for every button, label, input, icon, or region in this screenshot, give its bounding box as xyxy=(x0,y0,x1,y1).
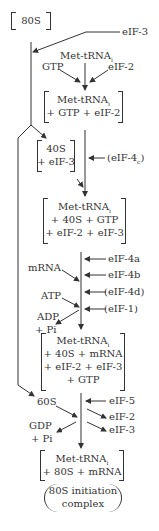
40s-eif3-node: 40S + eIF-3 xyxy=(37,140,75,172)
eif2-input-label: eIF-2 xyxy=(108,61,134,73)
ternary-complex-node: Met-tRNAi + GTP + eIF-2 xyxy=(44,91,123,123)
mrna-label: mRNA xyxy=(28,262,61,274)
gdp-label: GDP xyxy=(29,420,52,432)
met-trna-label: Met-tRNAi xyxy=(60,50,113,66)
eif1-label: (eIF-1) xyxy=(104,303,138,315)
40s-initiation-complex-node: Met-tRNAi + 40S + mRNA + eIF-2 + eIF-3 +… xyxy=(41,333,125,391)
eif2-output-label: eIF-2 xyxy=(109,411,135,423)
eif5-label: eIF-5 xyxy=(109,395,135,407)
adp-label: ADP xyxy=(37,311,59,323)
eif3-output-label: eIF-3 xyxy=(109,424,135,436)
gtp-label: GTP xyxy=(42,61,63,73)
eif4c-label: (eIF-4c) xyxy=(107,152,144,168)
final-complex-label: 80S initiation complex xyxy=(44,484,122,512)
80s-initiation-complex-node: Met-tRNAi + 80S + mRNA xyxy=(40,450,124,481)
eif3-input-label: eIF-3 xyxy=(122,26,148,38)
pi-label-2: + Pi xyxy=(31,433,52,445)
ribosome-80s-node: 80S xyxy=(11,12,51,30)
eif4a-label: eIF-4a xyxy=(108,253,140,265)
60s-label: 60S xyxy=(37,396,57,408)
atp-label: ATP xyxy=(41,290,61,302)
eif4b-label: eIF-4b xyxy=(108,269,141,281)
ribosome-80s-label: 80S xyxy=(11,15,51,27)
translation-initiation-diagram: 80S eIF-3 Met-tRNAi GTP eIF-2 Met-tRNAi … xyxy=(0,0,159,531)
43s-preinitiation-node: Met-tRNAi + 40S + GTP + eIF-2 + eIF-3 xyxy=(43,198,126,244)
eif4d-label: (eIF-4d) xyxy=(104,286,144,298)
